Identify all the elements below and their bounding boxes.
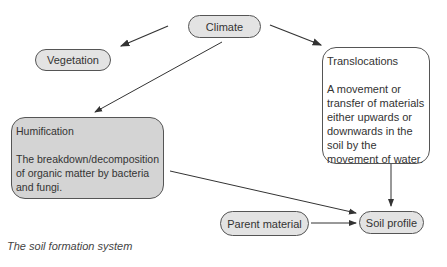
arrow-climate-translocations — [270, 25, 321, 45]
figure-caption: The soil formation system — [7, 240, 132, 252]
node-translocations-title: Translocations — [327, 54, 425, 68]
node-parent-material: Parent material — [220, 211, 309, 236]
arrow-humification-soilprofile — [170, 171, 356, 213]
node-soil-profile-label: Soil profile — [366, 217, 417, 229]
node-translocations-body: A movement or transfer of materials eith… — [327, 82, 425, 166]
node-vegetation: Vegetation — [35, 49, 111, 71]
node-humification-title: Humification — [16, 124, 159, 138]
node-vegetation-label: Vegetation — [47, 54, 99, 66]
node-translocations: Translocations A movement or transfer of… — [322, 47, 430, 164]
node-climate: Climate — [188, 15, 261, 38]
node-climate-label: Climate — [206, 21, 243, 33]
node-soil-profile: Soil profile — [359, 211, 424, 234]
soil-formation-diagram: Climate Vegetation Translocations A move… — [0, 0, 447, 267]
arrow-climate-humification — [95, 42, 222, 112]
node-parent-material-label: Parent material — [227, 218, 302, 230]
node-humification-body: The breakdown/decomposition of organic m… — [16, 152, 159, 194]
arrow-climate-vegetation — [121, 26, 168, 46]
node-humification: Humification The breakdown/decomposition… — [11, 117, 164, 199]
